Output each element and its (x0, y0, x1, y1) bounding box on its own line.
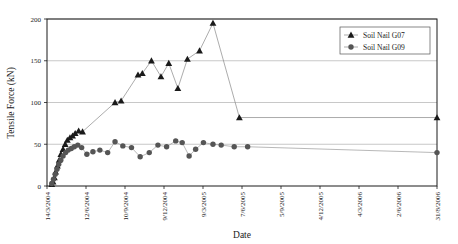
data-point-circle (120, 143, 125, 148)
chart-container: 050100150200 14/3/200412/6/200410/9/2004… (0, 0, 458, 244)
data-point-circle (51, 177, 56, 182)
data-point-circle (164, 144, 169, 149)
data-point-circle (54, 167, 59, 172)
data-point-circle (53, 172, 58, 177)
y-tick-label: 200 (31, 16, 42, 24)
data-point-triangle (236, 114, 243, 120)
data-point-circle (173, 138, 178, 143)
legend-label: Soil Nail G09 (363, 43, 405, 52)
y-tick-label: 150 (31, 57, 42, 65)
data-point-triangle (158, 73, 165, 79)
data-point-circle (90, 149, 95, 154)
x-axis-title: Date (233, 230, 251, 240)
data-point-circle (186, 153, 191, 158)
series-line (52, 141, 437, 184)
y-axis-title: Tensile Force (kN) (6, 67, 17, 139)
data-point-triangle (174, 85, 181, 91)
data-point-circle (112, 139, 117, 144)
data-point-circle (84, 152, 89, 157)
data-point-circle (105, 150, 110, 155)
data-point-triangle (210, 20, 217, 26)
data-point-triangle (148, 57, 155, 63)
data-point-circle (180, 140, 185, 145)
data-point-circle (155, 142, 160, 147)
data-point-circle (193, 147, 198, 152)
x-axis-ticks: 14/3/200412/6/200410/9/20049/12/20049/3/… (44, 186, 442, 220)
data-point-circle (147, 150, 152, 155)
data-point-circle (79, 145, 84, 150)
data-point-circle (245, 144, 250, 149)
data-point-circle (434, 150, 439, 155)
x-tick-label: 9/12/2004 (161, 192, 169, 221)
data-point-circle (219, 142, 224, 147)
data-point-circle (137, 154, 142, 159)
data-point-triangle (434, 114, 441, 120)
y-axis-ticks: 050100150200 (31, 16, 48, 191)
data-point-circle (201, 140, 206, 145)
data-point-triangle (139, 70, 146, 76)
series-soil-nail-g09 (49, 138, 440, 186)
x-tick-label: 7/6/2005 (239, 192, 247, 217)
data-point-triangle (196, 47, 203, 53)
data-point-circle (348, 44, 353, 49)
data-point-circle (97, 147, 102, 152)
x-tick-label: 4/3/2006 (356, 192, 364, 217)
chart-svg: 050100150200 14/3/200412/6/200410/9/2004… (0, 0, 458, 244)
x-tick-label: 31/8/2006 (434, 192, 442, 221)
data-point-circle (232, 144, 237, 149)
chart-legend: Soil Nail G07Soil Nail G09 (340, 27, 430, 54)
x-tick-label: 5/9/2005 (278, 192, 286, 217)
x-tick-label: 9/3/2005 (200, 192, 208, 217)
y-tick-label: 50 (34, 141, 42, 149)
data-point-triangle (184, 56, 191, 62)
legend-label: Soil Nail G07 (363, 31, 405, 40)
y-tick-label: 0 (38, 183, 42, 191)
x-tick-label: 10/9/2004 (122, 192, 130, 221)
data-point-circle (129, 145, 134, 150)
x-tick-label: 14/3/2004 (44, 192, 52, 221)
x-tick-label: 4/12/2005 (317, 192, 325, 221)
data-point-circle (210, 142, 215, 147)
x-tick-label: 12/6/2004 (83, 192, 91, 221)
y-tick-label: 100 (31, 99, 42, 107)
x-tick-label: 2/6/2006 (395, 192, 403, 217)
data-point-triangle (118, 97, 125, 103)
